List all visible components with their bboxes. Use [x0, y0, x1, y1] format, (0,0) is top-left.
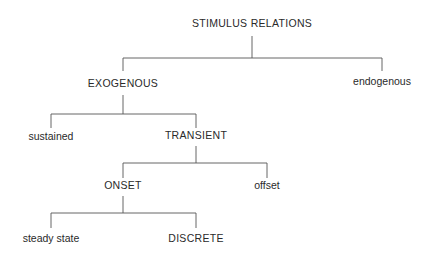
node-offset: offset — [254, 179, 280, 191]
connector-transient — [123, 146, 267, 178]
stimulus-relations-tree: STIMULUS RELATIONS EXOGENOUS endogenous … — [0, 0, 425, 254]
node-exogenous: EXOGENOUS — [88, 77, 158, 89]
node-discrete: DISCRETE — [168, 232, 224, 244]
node-sustained: sustained — [29, 130, 74, 142]
connector-root — [123, 36, 382, 71]
node-stimulus-relations: STIMULUS RELATIONS — [192, 17, 312, 29]
node-endogenous: endogenous — [353, 75, 411, 87]
node-onset: ONSET — [104, 179, 142, 191]
connector-onset — [51, 196, 196, 228]
node-transient: TRANSIENT — [165, 129, 227, 141]
node-steady-state: steady state — [23, 232, 80, 244]
connector-exogenous — [51, 95, 196, 128]
